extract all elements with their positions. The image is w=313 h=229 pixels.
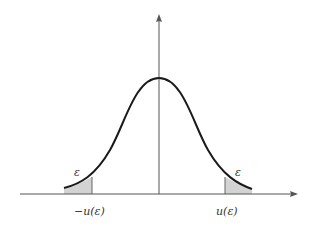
left-tail-area-label: ε xyxy=(74,166,80,179)
left-bound-label: −u(ε) xyxy=(74,205,105,218)
right-tail-shade xyxy=(225,177,252,194)
right-tail-area-label: ε xyxy=(235,166,241,179)
normal-distribution-diagram: ε ε −u(ε) u(ε) xyxy=(0,0,313,229)
bell-curve xyxy=(64,78,252,189)
right-bound-label: u(ε) xyxy=(216,205,238,218)
x-axis-arrow-icon xyxy=(290,191,298,197)
left-tail-shade xyxy=(64,177,92,194)
y-axis-arrow-icon xyxy=(156,14,162,22)
